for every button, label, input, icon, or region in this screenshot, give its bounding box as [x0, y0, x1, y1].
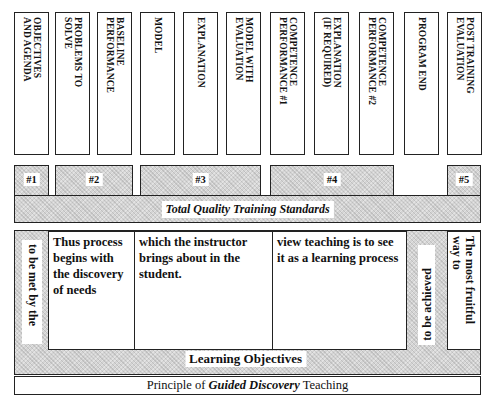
- learning-text-box: Thus process begins with the discovery o…: [48, 231, 407, 350]
- step-competence-performance-1: COMPETENCE PERFORMANCE #1: [270, 12, 305, 155]
- step-baseline-performance: BASELINE PERFORMANCE: [97, 12, 132, 155]
- step-label: MODEL WITH EVALUATION: [234, 17, 254, 83]
- to-be-achieved-label: to be achieved: [418, 245, 435, 345]
- step-problems-to-solve: PROBLEMS TO SOLVE: [55, 12, 90, 155]
- phase-label: #2: [86, 173, 103, 186]
- phase-label: #1: [23, 173, 40, 186]
- learning-objectives-label: Learning Objectives: [185, 351, 306, 367]
- standards-label: Total Quality Training Standards: [161, 201, 333, 218]
- left-vertical-label: to be met by the: [22, 240, 42, 344]
- phase-2: #2: [55, 165, 133, 196]
- fruitful-way-box: The most fruitful way to: [447, 231, 481, 350]
- text-cell-view-teaching: view teaching is to see it as a learning…: [272, 232, 405, 349]
- step-label: EXPLANATION: [196, 17, 206, 88]
- standards-band: Total Quality Training Standards: [14, 195, 481, 223]
- step-label: COMPETENCE PERFORMANCE #2: [367, 17, 387, 105]
- step-label: COMPETENCE PERFORMANCE #1: [278, 17, 298, 105]
- step-label: PROGRAM END: [417, 17, 427, 91]
- text-cell-instructor: which the instructor brings about in the…: [134, 232, 272, 349]
- step-program-end: PROGRAM END: [404, 12, 439, 155]
- phase-5: #5: [447, 165, 481, 196]
- step-objectives-agenda: OBJECTIVES AND AGENDA: [14, 12, 49, 155]
- principle-footer: Principle of Guided Discovery Teaching: [14, 376, 481, 395]
- step-label: MODEL: [153, 17, 163, 53]
- phase-label: #3: [192, 173, 209, 186]
- step-model: MODEL: [140, 12, 175, 155]
- step-competence-performance-2: COMPETENCE PERFORMANCE #2: [359, 12, 394, 155]
- step-post-training-evaluation: POST TRAINING EVALUATION: [447, 12, 482, 155]
- step-label: PROBLEMS TO SOLVE: [63, 17, 83, 87]
- phase-1: #1: [14, 165, 49, 196]
- phase-label: #4: [324, 173, 341, 186]
- step-label: POST TRAINING EVALUATION: [455, 17, 475, 94]
- step-model-with-evaluation: MODEL WITH EVALUATION: [226, 12, 261, 155]
- phase-4: #4: [270, 165, 394, 196]
- step-label: BASELINE PERFORMANCE: [105, 17, 125, 93]
- step-label: EXPLANATION (IF REQUIRED): [322, 17, 342, 88]
- principle-suffix: Teaching: [300, 378, 349, 392]
- step-label: OBJECTIVES AND AGENDA: [22, 17, 42, 82]
- step-explanation: EXPLANATION: [183, 12, 218, 155]
- phase-label: #5: [456, 173, 473, 186]
- step-explanation-if-required: EXPLANATION (IF REQUIRED): [314, 12, 349, 155]
- principle-prefix: Principle of: [147, 378, 209, 392]
- phase-3: #3: [140, 165, 261, 196]
- principle-emphasis: Guided Discovery: [208, 378, 299, 392]
- text-cell-discovery: Thus process begins with the discovery o…: [49, 232, 134, 349]
